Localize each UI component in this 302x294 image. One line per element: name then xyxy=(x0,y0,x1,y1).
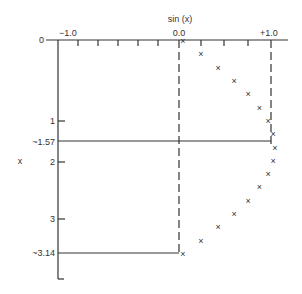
data-point-marker: × xyxy=(232,209,237,219)
data-point-marker: × xyxy=(198,49,203,59)
data-point-marker: × xyxy=(265,169,270,179)
data-point-marker: × xyxy=(180,36,185,46)
y-tick-label-3: 3 xyxy=(50,214,55,224)
data-point-marker: × xyxy=(272,143,277,153)
data-point-marker: × xyxy=(271,156,276,166)
left-ticks xyxy=(58,121,65,219)
y-tick-label-2: 2 xyxy=(50,157,55,167)
data-points: ××××××××××××××××× xyxy=(180,36,277,259)
top-ticks xyxy=(78,40,248,46)
data-point-marker: × xyxy=(265,116,270,126)
x-tick-label-neg1: −1.0 xyxy=(59,28,77,38)
data-point-marker: × xyxy=(216,222,221,232)
y-tick-label-1-57: ~1.57 xyxy=(32,137,55,147)
data-point-marker: × xyxy=(245,89,250,99)
x-axis-title: sin (x) xyxy=(168,14,193,24)
data-point-marker: × xyxy=(180,249,185,259)
data-point-marker: × xyxy=(257,103,262,113)
x-tick-label-pos1: +1.0 xyxy=(260,28,278,38)
sine-chart: sin (x) x −1.0 0.0 +1.0 0 1 ~1.57 2 3 ~3… xyxy=(0,0,302,294)
y-tick-label-0: 0 xyxy=(39,35,44,45)
y-tick-label-3-14: ~3.14 xyxy=(32,248,55,258)
data-point-marker: × xyxy=(198,236,203,246)
data-point-marker: × xyxy=(245,196,250,206)
data-point-marker: × xyxy=(271,129,276,139)
y-tick-label-1: 1 xyxy=(50,116,55,126)
data-point-marker: × xyxy=(216,63,221,73)
data-point-marker: × xyxy=(232,76,237,86)
y-axis-title: x xyxy=(18,156,23,166)
data-point-marker: × xyxy=(257,182,262,192)
